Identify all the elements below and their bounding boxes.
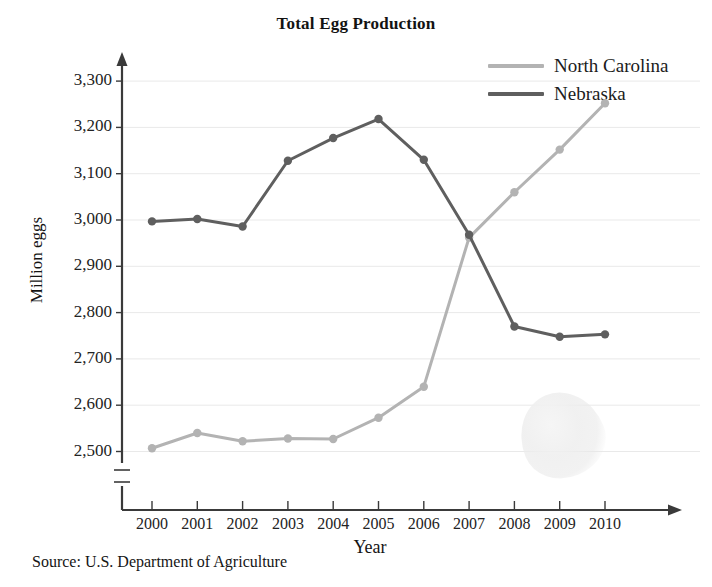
series-point [465,231,473,239]
plot-area [0,0,712,587]
series-point [238,437,246,445]
series-point [374,414,382,422]
series-point [420,156,428,164]
series-point [556,145,564,153]
series-point [193,215,201,223]
series-point [193,429,201,437]
series-point [510,188,518,196]
series-point [329,134,337,142]
series-point [329,435,337,443]
series-point [284,157,292,165]
series-point [601,99,609,107]
series-point [148,444,156,452]
egg-production-chart: Total Egg Production North Carolina Nebr… [0,0,712,587]
y-axis-arrow [117,52,128,66]
series-point [556,332,564,340]
series-point [601,330,609,338]
series-line [152,119,605,337]
series-point [510,322,518,330]
series-point [374,115,382,123]
series-point [238,222,246,230]
series-line [152,103,605,448]
x-axis-arrow [668,505,682,516]
series-point [148,217,156,225]
series-point [284,434,292,442]
series-point [420,382,428,390]
